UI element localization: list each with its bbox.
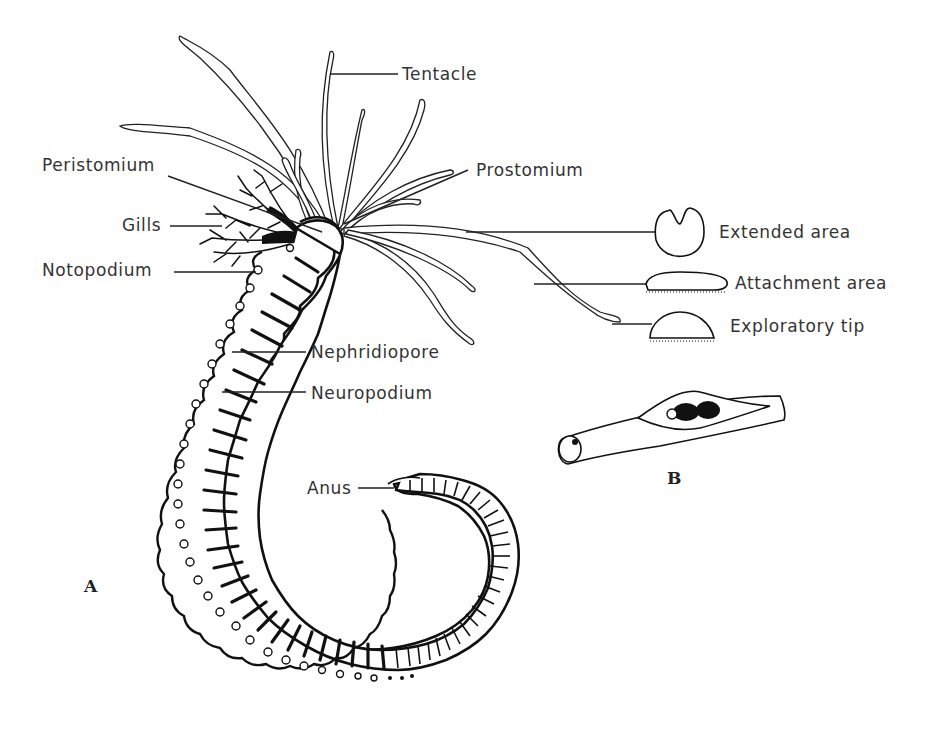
label-attachment-area: Attachment area xyxy=(735,275,887,292)
worm-anatomy-figure: Tentacle Peristomium Prostomium Gills No… xyxy=(0,0,930,737)
label-exploratory-tip: Exploratory tip xyxy=(730,318,865,335)
attachment-area-shape xyxy=(646,272,727,290)
label-anus: Anus xyxy=(307,480,351,497)
extended-area-shape xyxy=(655,208,704,256)
exploratory-tip-shape xyxy=(650,312,714,338)
panel-label-b: B xyxy=(667,470,681,487)
label-extended-area: Extended area xyxy=(719,224,851,241)
label-nephridiopore: Nephridiopore xyxy=(311,344,439,361)
label-neuropodium: Neuropodium xyxy=(311,385,433,402)
tentacles xyxy=(120,36,620,345)
label-tentacle: Tentacle xyxy=(402,66,477,83)
tube-drawing xyxy=(558,391,784,464)
worm-illustration xyxy=(0,0,930,737)
label-prostomium: Prostomium xyxy=(476,162,584,179)
worm-body xyxy=(224,217,519,670)
label-gills: Gills xyxy=(122,217,161,234)
label-notopodium: Notopodium xyxy=(42,262,152,279)
label-peristomium: Peristomium xyxy=(42,157,155,174)
panel-label-a: A xyxy=(84,578,97,595)
